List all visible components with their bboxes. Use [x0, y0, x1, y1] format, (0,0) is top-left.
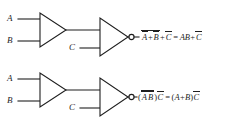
top-input-label-a: A	[7, 14, 13, 23]
top-gate-1-body	[40, 13, 66, 47]
bottom-gate-1-body	[40, 73, 66, 107]
bottom-gate-2-body	[100, 78, 128, 116]
bottom-equals-sign: =	[164, 92, 172, 102]
diagram-canvas: A B C A+B +C=AB+C A B C (AB)C=(A+B)C	[0, 0, 226, 123]
top-output-bubble	[129, 34, 134, 39]
circuit-lines	[0, 0, 226, 123]
top-output-expression: A+B +C=AB+C	[141, 30, 202, 42]
top-input-label-b: B	[7, 36, 13, 45]
top-lhs-overbar-group: A+B	[141, 32, 160, 42]
bottom-input-label-c: C	[69, 103, 75, 112]
bottom-output-expression: (AB)C=(A+B)C	[138, 90, 200, 102]
top-rhs-c-bar: C	[195, 32, 202, 42]
bottom-lhs-c-bar: C	[157, 92, 164, 102]
bottom-output-bubble	[129, 94, 134, 99]
top-lhs-a-bar: A	[142, 32, 148, 42]
top-lhs-b-bar: B	[153, 32, 159, 42]
top-gate-2-body	[100, 18, 128, 56]
bottom-input-label-a: A	[7, 74, 13, 83]
top-lhs-c-bar: C	[165, 32, 172, 42]
bottom-input-label-b: B	[7, 96, 13, 105]
bottom-lhs-overbar-group: AB	[141, 92, 154, 102]
bottom-rhs-c-bar: C	[193, 92, 200, 102]
top-equals-sign: =	[172, 32, 180, 42]
top-input-label-c: C	[69, 43, 75, 52]
bottom-lhs-b-bar: B	[148, 92, 154, 102]
